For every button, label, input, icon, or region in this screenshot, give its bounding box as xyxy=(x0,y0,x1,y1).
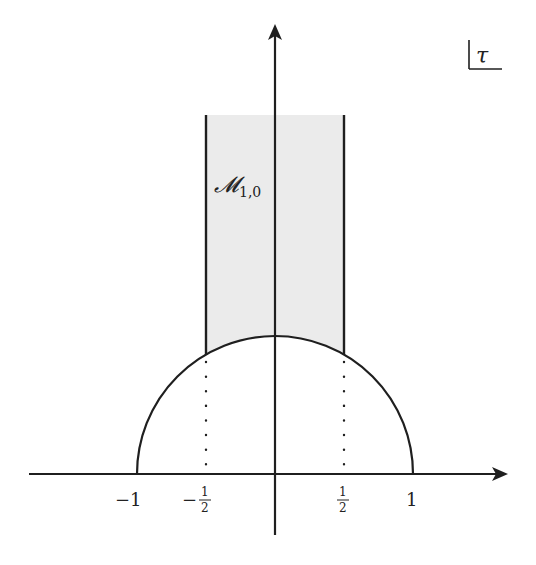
tick-label-pos-half: 1 2 xyxy=(337,485,349,515)
svg-text:2: 2 xyxy=(201,501,209,515)
svg-text:2: 2 xyxy=(339,501,347,515)
svg-text:1: 1 xyxy=(339,485,347,499)
tick-label-pos-one: 1 xyxy=(406,489,417,510)
svg-text:−: − xyxy=(182,489,197,510)
fundamental-domain-diagram: 𝓜1,0 τ −1 − 1 2 1 2 1 xyxy=(0,0,536,565)
plane-label-tau: τ xyxy=(476,43,489,68)
tick-label-neg-half: − 1 2 xyxy=(182,485,211,515)
tick-label-neg-one: −1 xyxy=(115,489,142,510)
svg-text:1: 1 xyxy=(201,485,209,499)
